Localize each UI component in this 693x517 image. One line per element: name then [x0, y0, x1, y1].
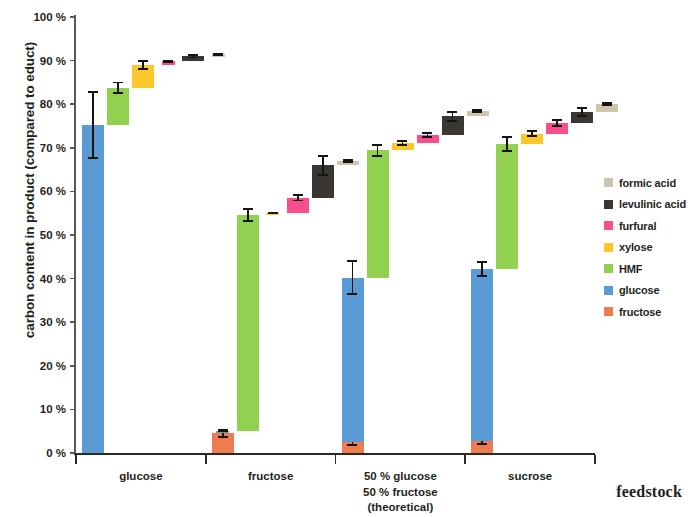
- x-axis-tick-mark: [75, 455, 77, 464]
- x-axis-title: feedstock: [616, 483, 682, 501]
- y-axis-tick-label: 0 %: [18, 448, 66, 458]
- error-bar-glucose: [92, 91, 94, 159]
- error-bar-levulinic-acid: [452, 111, 454, 121]
- legend-label: glucose: [619, 284, 660, 296]
- legend-swatch-icon: [604, 286, 613, 295]
- error-bar-furfural: [167, 60, 169, 63]
- x-axis-tick-mark: [464, 455, 466, 464]
- y-axis-tick-label: 70 %: [18, 143, 66, 153]
- y-axis-tick-label: 50 %: [18, 230, 66, 240]
- legend-swatch-icon: [604, 307, 613, 316]
- y-axis-tick-label: 90 %: [18, 56, 66, 66]
- x-axis-tick-mark: [594, 455, 596, 464]
- x-axis-group-label-line: 50 % fructose: [336, 485, 466, 501]
- error-bar-furfural: [427, 132, 429, 138]
- legend-item: HMF: [604, 258, 693, 280]
- error-bar-levulinic-acid: [322, 155, 324, 176]
- legend-item: levulinic acid: [604, 194, 693, 216]
- error-bar-furfural: [297, 194, 299, 201]
- error-bar-glucose: [222, 430, 224, 432]
- error-bar-formic-acid: [477, 109, 479, 113]
- error-bar-xylose: [142, 60, 144, 70]
- y-axis-tick-label: 40 %: [18, 274, 66, 284]
- legend-swatch-icon: [604, 200, 613, 209]
- error-bar-glucose: [352, 260, 354, 295]
- legend-item: fructose: [604, 301, 693, 323]
- error-bar-formic-acid: [217, 54, 219, 56]
- bar-segment-HMF: [367, 150, 389, 277]
- x-axis-group-label: 50 % glucose50 % fructose(theoretical): [336, 469, 466, 516]
- chart-figure: carbon content in product (compared to e…: [0, 0, 693, 517]
- error-bar-HMF: [117, 82, 119, 94]
- x-axis-group-label: sucrose: [465, 469, 595, 485]
- legend-label: xylose: [619, 241, 652, 253]
- error-bar-glucose: [481, 261, 483, 277]
- x-axis-tick-mark: [335, 455, 337, 464]
- legend-item: formic acid: [604, 172, 693, 194]
- error-bar-HMF: [377, 144, 379, 156]
- x-axis-group-label-line: glucose: [76, 469, 206, 485]
- legend-item: xylose: [604, 237, 693, 259]
- error-bar-formic-acid: [606, 102, 608, 105]
- y-axis-tick-label: 60 %: [18, 186, 66, 196]
- error-bar-HMF: [247, 208, 249, 222]
- bar-segment-glucose: [342, 278, 364, 442]
- legend: formic acidlevulinic acidfurfuralxyloseH…: [604, 172, 693, 323]
- legend-swatch-icon: [604, 243, 613, 252]
- x-axis-group-label: glucose: [76, 469, 206, 485]
- error-bar-furfural: [556, 119, 558, 127]
- x-axis-group-label-line: (theoretical): [336, 500, 466, 516]
- x-axis-group-label-line: 50 % glucose: [336, 469, 466, 485]
- legend-item: glucose: [604, 280, 693, 302]
- error-bar-xylose: [272, 212, 274, 214]
- x-axis-group-label: fructose: [206, 469, 336, 485]
- legend-swatch-icon: [604, 221, 613, 230]
- legend-label: levulinic acid: [619, 198, 686, 210]
- y-axis-tick-label: 30 %: [18, 317, 66, 327]
- bar-segment-HMF: [237, 215, 259, 431]
- y-axis-title-main: carbon content in product: [22, 173, 37, 338]
- x-axis-group-label-line: sucrose: [465, 469, 595, 485]
- bar-segment-glucose: [471, 269, 493, 441]
- error-bar-levulinic-acid: [192, 54, 194, 58]
- y-axis-tick-label: 20 %: [18, 361, 66, 371]
- legend-label: furfural: [619, 220, 656, 232]
- y-axis-tick-label: 10 %: [18, 404, 66, 414]
- error-bar-levulinic-acid: [581, 107, 583, 117]
- plot-area: [75, 17, 595, 453]
- legend-swatch-icon: [604, 264, 613, 273]
- bar-segment-glucose: [82, 125, 104, 453]
- x-axis-tick-mark: [205, 455, 207, 464]
- y-axis-tick-label: 80 %: [18, 99, 66, 109]
- legend-item: furfural: [604, 215, 693, 237]
- y-axis-tick-label: 100 %: [18, 12, 66, 22]
- error-bar-formic-acid: [347, 159, 349, 162]
- error-bar-xylose: [402, 140, 404, 146]
- legend-label: formic acid: [619, 177, 676, 189]
- legend-label: fructose: [619, 306, 661, 318]
- error-bar-HMF: [506, 136, 508, 152]
- legend-swatch-icon: [604, 178, 613, 187]
- legend-label: HMF: [619, 263, 642, 275]
- bar-segment-HMF: [496, 144, 518, 269]
- error-bar-xylose: [531, 130, 533, 137]
- x-axis-group-label-line: fructose: [206, 469, 336, 485]
